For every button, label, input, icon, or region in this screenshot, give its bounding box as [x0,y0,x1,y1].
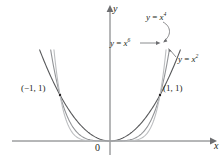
x6-leader-arrowhead [156,41,161,45]
curve-label-x2: y = x2 [178,54,198,64]
curve-label-x4-equals: = [150,12,160,22]
point-marker-right [159,94,161,96]
curve-label-x6: y = x6 [110,38,130,48]
curve-label-x6-equals: = [114,38,124,48]
figure-canvas: y x y = x4 y = x6 y = x2 (−1, 1) (1, 1) … [0,0,224,167]
curve-label-x2-equals: = [182,54,192,64]
x4-leader-line [163,22,170,41]
y-axis-label: y [113,4,117,14]
y-axis [107,5,114,155]
point-marker-left [59,94,61,96]
curve-label-x6-exponent: 6 [128,37,131,43]
leader-lines [140,22,176,57]
point-label-minus-one-one: (−1, 1) [21,84,46,93]
point-label-one-one: (1, 1) [163,84,183,93]
origin-label: 0 [95,143,100,153]
curve-label-x4-exponent: 4 [164,11,167,17]
curve-label-x2-exponent: 2 [196,53,199,59]
x-axis-label: x [214,141,218,151]
curve-label-x4: y = x4 [146,12,166,22]
